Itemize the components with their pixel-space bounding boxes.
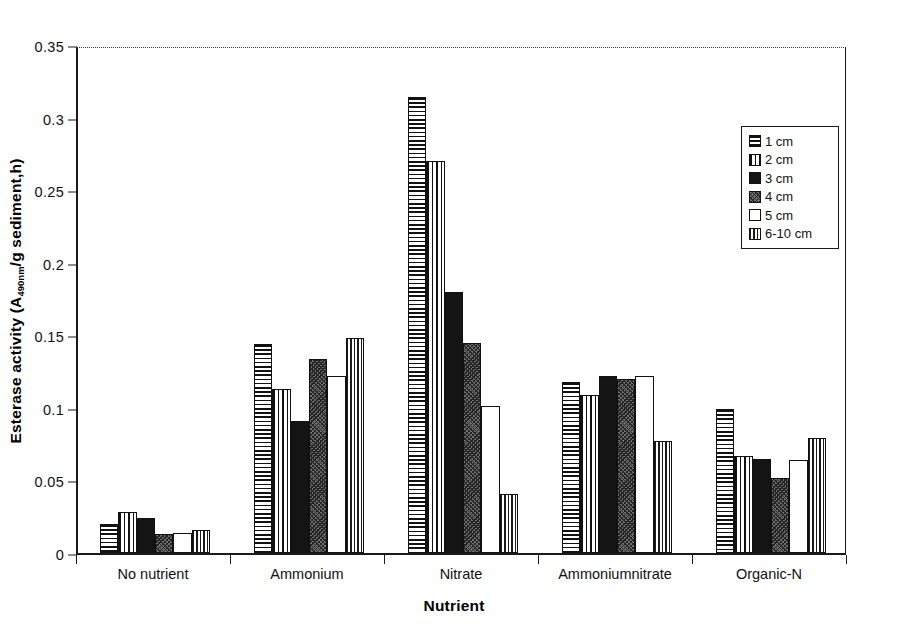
y-axis-tick-label: 0.3: [43, 112, 64, 128]
chart-figure: 00.050.10.150.20.250.30.35 Esterase acti…: [0, 0, 908, 642]
x-axis-group-label: Organic-N: [692, 566, 846, 582]
x-axis-tick-mark: [692, 555, 693, 564]
legend-item-label: 1 cm: [765, 135, 793, 148]
bar: [408, 97, 426, 553]
legend-item: 4 cm: [749, 188, 832, 207]
bar: [291, 421, 309, 553]
legend-item: 3 cm: [749, 169, 832, 188]
legend-item-label: 5 cm: [765, 209, 793, 222]
bar: [272, 389, 290, 553]
bar: [481, 406, 499, 553]
legend-item-label: 6-10 cm: [765, 227, 812, 240]
bar: [173, 533, 191, 553]
bar: [309, 359, 327, 553]
bar: [192, 530, 210, 553]
bar: [789, 460, 807, 553]
y-axis-tick-label: 0: [56, 547, 64, 563]
x-axis-group-label: Ammonium: [230, 566, 384, 582]
bar: [500, 494, 518, 554]
bar: [562, 382, 580, 553]
x-axis-tick-mark: [538, 555, 539, 564]
bar: [635, 376, 653, 553]
bar: [580, 395, 598, 553]
legend-swatch-icon: [749, 135, 761, 147]
y-axis-tick-label: 0.15: [35, 329, 64, 345]
bar: [137, 518, 155, 553]
bar: [445, 292, 463, 553]
x-axis-tick-mark: [76, 555, 77, 564]
legend-swatch-icon: [749, 154, 761, 166]
y-axis-tick-label: 0.35: [35, 39, 64, 55]
y-axis-tick-label: 0.05: [35, 474, 64, 490]
legend-item: 5 cm: [749, 206, 832, 225]
legend-swatch-icon: [749, 191, 761, 203]
bar: [426, 161, 444, 553]
y-axis-tick-label: 0.1: [43, 402, 64, 418]
x-axis-tick-mark: [384, 555, 385, 564]
bar: [254, 344, 272, 553]
legend-swatch-icon: [749, 228, 761, 240]
bar: [599, 376, 617, 553]
bar: [617, 379, 635, 553]
bar: [100, 524, 118, 553]
x-axis-group-label: No nutrient: [76, 566, 230, 582]
legend-item-label: 3 cm: [765, 172, 793, 185]
chart-legend: 1 cm2 cm3 cm4 cm5 cm6-10 cm: [741, 126, 839, 249]
bar: [155, 534, 173, 553]
y-axis-title-subscript: 490nm: [15, 266, 26, 296]
y-axis-tick-label: 0.2: [43, 257, 64, 273]
legend-item: 2 cm: [749, 151, 832, 170]
legend-swatch-icon: [749, 209, 761, 221]
legend-item-label: 4 cm: [765, 190, 793, 203]
x-axis-group-label: Ammoniumnitrate: [538, 566, 692, 582]
legend-swatch-icon: [749, 172, 761, 184]
bar: [346, 338, 364, 553]
y-axis-tick-label: 0.25: [35, 184, 64, 200]
bar: [734, 456, 752, 553]
bar: [716, 409, 734, 553]
plot-area: [76, 47, 846, 555]
y-axis-title: Esterase activity (A490nm/g sediment,h): [7, 66, 25, 536]
y-axis-title-tail: /g sediment,h): [7, 159, 24, 267]
x-axis-tick-mark: [230, 555, 231, 564]
x-axis-tick-mark: [846, 555, 847, 564]
bar: [753, 459, 771, 553]
x-axis-group-label: Nitrate: [384, 566, 538, 582]
x-axis-title: Nutrient: [0, 597, 908, 615]
bar: [808, 438, 826, 553]
y-axis-title-main: Esterase activity (A: [7, 296, 24, 443]
legend-item: 6-10 cm: [749, 225, 832, 244]
bar: [463, 343, 481, 553]
legend-item-label: 2 cm: [765, 153, 793, 166]
bar: [771, 478, 789, 553]
legend-item: 1 cm: [749, 132, 832, 151]
bar: [327, 376, 345, 553]
bar: [654, 441, 672, 553]
bar: [118, 512, 136, 553]
